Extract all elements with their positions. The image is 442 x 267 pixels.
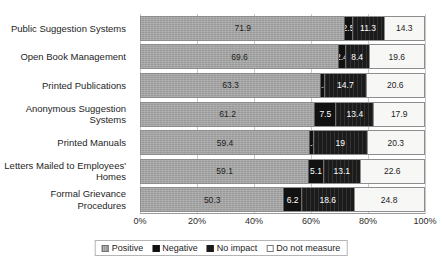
- stacked-bar[interactable]: 50.36.218.624.8: [140, 187, 425, 212]
- bar-segment[interactable]: 61.2: [141, 103, 314, 126]
- legend-item[interactable]: Do not measure: [266, 243, 340, 253]
- bar-segment[interactable]: 20.6: [366, 74, 424, 97]
- bar-segment[interactable]: 11.3: [352, 17, 384, 40]
- category-label: Open Book Management: [0, 43, 132, 72]
- legend-label: Negative: [162, 243, 198, 253]
- legend-item[interactable]: Positive: [102, 243, 144, 253]
- bar-row: 59.41.31920.3: [140, 128, 425, 157]
- bar-segment[interactable]: 63.3: [141, 74, 320, 97]
- bar-row: 63.31.414.720.6: [140, 71, 425, 100]
- bar-segment[interactable]: 13.4: [335, 103, 373, 126]
- category-axis: Public Suggestion SystemsOpen Book Manag…: [0, 14, 132, 214]
- x-tick-label: 100%: [413, 216, 436, 226]
- category-label: Printed Publications: [0, 71, 132, 100]
- bar-segment[interactable]: 19: [313, 131, 367, 154]
- gridline: [425, 14, 426, 214]
- bar-segment[interactable]: 17.9: [373, 103, 424, 126]
- bar-row: 69.62.48.419.6: [140, 43, 425, 72]
- x-tick-label: 60%: [302, 216, 320, 226]
- bar-segment[interactable]: 6.2: [283, 188, 301, 211]
- stacked-bar[interactable]: 69.62.48.419.6: [140, 44, 425, 69]
- bar-segment[interactable]: 20.3: [367, 131, 424, 154]
- bar-segment[interactable]: 22.6: [360, 160, 424, 183]
- x-tick-label: 0%: [133, 216, 146, 226]
- legend-item[interactable]: No impact: [207, 243, 258, 253]
- bar-segment[interactable]: 8.4: [345, 45, 369, 68]
- x-tick-label: 80%: [359, 216, 377, 226]
- bar-segment[interactable]: 24.8: [354, 188, 424, 211]
- x-axis-tick-labels: 0%20%40%60%80%100%: [140, 216, 425, 230]
- legend-swatch-icon: [207, 245, 214, 252]
- bar-row: 61.27.513.417.9: [140, 100, 425, 129]
- bar-segment[interactable]: 14.3: [384, 17, 424, 40]
- legend-label: No impact: [217, 243, 258, 253]
- stacked-bar[interactable]: 61.27.513.417.9: [140, 102, 425, 127]
- stacked-bar[interactable]: 59.15.113.122.6: [140, 159, 425, 184]
- bar-segment[interactable]: 50.3: [141, 188, 283, 211]
- bar-segment[interactable]: 13.1: [323, 160, 360, 183]
- stacked-bar[interactable]: 59.41.31920.3: [140, 130, 425, 155]
- x-axis-line: [140, 213, 425, 214]
- bar-segment[interactable]: 5.1: [308, 160, 322, 183]
- category-label: Printed Manuals: [0, 128, 132, 157]
- x-tick-label: 40%: [245, 216, 263, 226]
- bar-row: 50.36.218.624.8: [140, 185, 425, 214]
- bar-row: 71.92.511.314.3: [140, 14, 425, 43]
- bar-rows: 71.92.511.314.369.62.48.419.663.31.414.7…: [140, 14, 425, 214]
- stacked-bar[interactable]: 63.31.414.720.6: [140, 73, 425, 98]
- category-label: Anonymous Suggestion Systems: [0, 100, 132, 129]
- legend-swatch-icon: [102, 245, 109, 252]
- bar-segment[interactable]: 69.6: [141, 45, 338, 68]
- bar-segment[interactable]: 19.6: [369, 45, 424, 68]
- bar-segment[interactable]: 59.1: [141, 160, 308, 183]
- bar-segment[interactable]: 18.6: [301, 188, 354, 211]
- bar-segment[interactable]: 2.5: [344, 17, 351, 40]
- bar-segment[interactable]: 7.5: [314, 103, 335, 126]
- category-label: Letters Mailed to Employees' Homes: [0, 157, 132, 186]
- category-label: Formal Grievance Procedures: [0, 185, 132, 214]
- bar-segment[interactable]: 71.9: [141, 17, 344, 40]
- stacked-bar-chart: Public Suggestion SystemsOpen Book Manag…: [0, 0, 442, 267]
- bar-segment[interactable]: 14.7: [324, 74, 366, 97]
- legend-label: Positive: [112, 243, 144, 253]
- bar-segment[interactable]: 2.4: [338, 45, 345, 68]
- legend-swatch-icon: [152, 245, 159, 252]
- plot-area: 71.92.511.314.369.62.48.419.663.31.414.7…: [140, 14, 425, 214]
- bar-row: 59.15.113.122.6: [140, 157, 425, 186]
- legend-swatch-icon: [266, 245, 273, 252]
- stacked-bar[interactable]: 71.92.511.314.3: [140, 16, 425, 41]
- legend-item[interactable]: Negative: [152, 243, 198, 253]
- x-tick-label: 20%: [188, 216, 206, 226]
- legend-label: Do not measure: [276, 243, 340, 253]
- chart-legend: PositiveNegativeNo impactDo not measure: [95, 240, 348, 256]
- category-label: Public Suggestion Systems: [0, 14, 132, 43]
- bar-segment[interactable]: 59.4: [141, 131, 309, 154]
